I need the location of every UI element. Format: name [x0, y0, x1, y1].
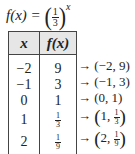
- table-row: 0 1: [9, 93, 77, 109]
- point-label: (−1, 3): [94, 74, 130, 89]
- base-numerator: 1: [52, 7, 59, 18]
- point-item: → (−2, 9): [78, 58, 130, 74]
- cell-fx: 1: [40, 93, 77, 109]
- close-paren: ): [120, 128, 126, 149]
- table-row: −1 3: [9, 77, 77, 93]
- fraction: 13: [55, 112, 61, 129]
- close-paren: ): [120, 106, 126, 127]
- arrow-icon: →: [78, 74, 91, 89]
- point-item: → (1, 13): [78, 106, 126, 128]
- base-denominator: 3: [53, 18, 58, 28]
- point-item: → (0, 1): [78, 90, 122, 106]
- table-row: 2 19: [9, 131, 77, 154]
- header-x: x: [9, 32, 40, 55]
- arrow-icon: →: [78, 130, 91, 145]
- cell-x: −2: [9, 55, 40, 78]
- point-item: → (2, 19): [78, 128, 126, 150]
- arrow-icon: →: [78, 90, 91, 105]
- point-label: (−2, 9): [94, 58, 130, 73]
- open-paren: (: [44, 3, 51, 32]
- point-x: 2,: [101, 130, 114, 145]
- fraction-denominator: 9: [115, 140, 119, 148]
- point-x: 1,: [101, 108, 114, 123]
- header-fx: f(x): [40, 32, 77, 55]
- arrow-icon: →: [78, 108, 91, 123]
- cell-fx: 3: [40, 77, 77, 93]
- formula-lhs: f(x) =: [6, 7, 41, 23]
- cell-fx: 13: [40, 109, 77, 131]
- cell-x: −1: [9, 77, 40, 93]
- fraction-denominator: 3: [115, 118, 119, 126]
- function-formula: f(x) = (13)x: [6, 4, 71, 30]
- fraction: 19: [55, 134, 61, 151]
- point-item: → (−1, 3): [78, 74, 130, 90]
- arrow-icon: →: [78, 58, 91, 73]
- cell-x: 2: [9, 131, 40, 154]
- point-label: (0, 1): [94, 90, 122, 105]
- value-table: x f(x) −2 9 −1 3 0 1 1 13 2 19: [8, 31, 77, 154]
- table-row: −2 9: [9, 55, 77, 78]
- table-row: 1 13: [9, 109, 77, 131]
- exponent: x: [66, 1, 70, 12]
- close-paren: ): [59, 3, 66, 32]
- cell-fx: 9: [40, 55, 77, 78]
- fraction-denominator: 3: [56, 121, 60, 129]
- cell-fx: 19: [40, 131, 77, 154]
- cell-x: 1: [9, 109, 40, 131]
- fraction-denominator: 9: [56, 143, 60, 151]
- base-fraction: 13: [52, 7, 59, 28]
- cell-x: 0: [9, 93, 40, 109]
- table-header-row: x f(x): [9, 32, 77, 55]
